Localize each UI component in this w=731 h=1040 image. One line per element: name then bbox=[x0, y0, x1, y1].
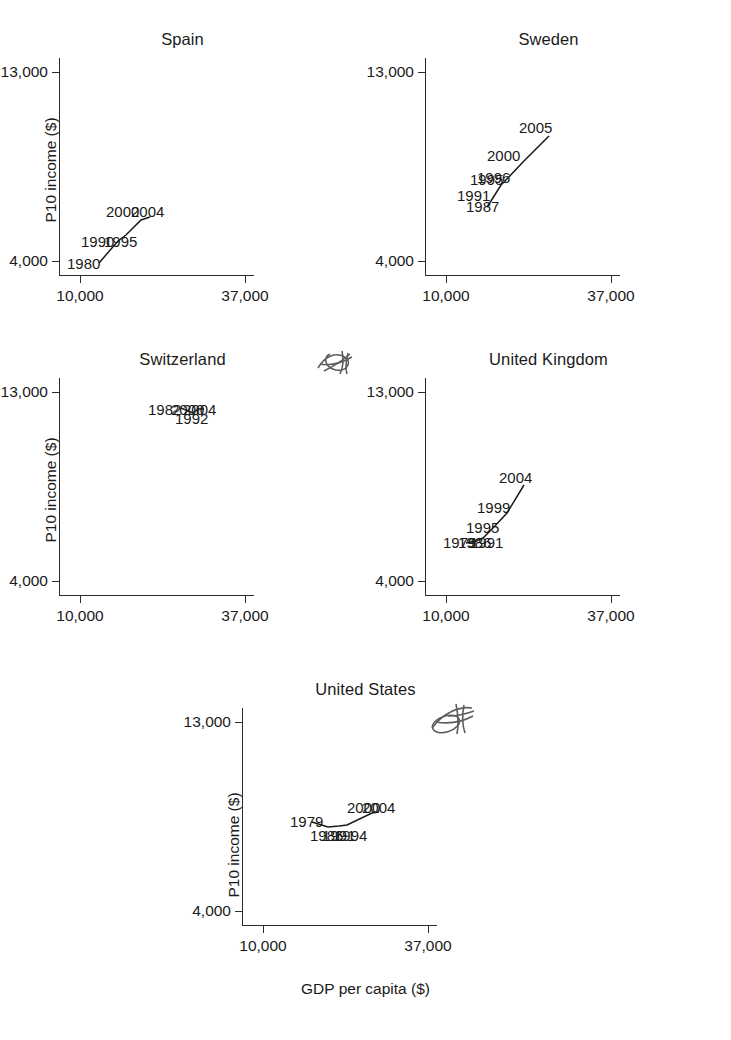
point-label: 1991 bbox=[457, 188, 490, 203]
y-tick-4000 bbox=[418, 261, 425, 262]
point-label: 2005 bbox=[519, 120, 552, 135]
x-tick-label-10000: 10,000 bbox=[56, 607, 103, 625]
panel-united-kingdom: United Kingdom 13,000 4,000 10,000 37,00… bbox=[366, 350, 731, 630]
x-tick-10000 bbox=[80, 596, 81, 603]
point-label: 2004 bbox=[362, 800, 395, 815]
y-tick-4000 bbox=[52, 261, 59, 262]
y-tick-13000 bbox=[235, 722, 242, 723]
y-tick-label-4000: 4,000 bbox=[375, 252, 414, 270]
y-tick-4000 bbox=[418, 581, 425, 582]
x-tick-10000 bbox=[80, 276, 81, 283]
y-tick-label-13000: 13,000 bbox=[1, 383, 48, 401]
y-tick-label-4000: 4,000 bbox=[9, 572, 48, 590]
panel-title-sweden: Sweden bbox=[366, 30, 731, 49]
x-tick-37000 bbox=[428, 926, 429, 933]
point-label: 2004 bbox=[499, 470, 532, 485]
y-tick-13000 bbox=[418, 392, 425, 393]
x-tick-label-10000: 10,000 bbox=[422, 607, 469, 625]
x-tick-label-10000: 10,000 bbox=[422, 287, 469, 305]
panel-title-united-kingdom: United Kingdom bbox=[366, 350, 731, 369]
y-tick-13000 bbox=[52, 72, 59, 73]
point-label: 1994 bbox=[334, 828, 367, 843]
y-tick-label-13000: 13,000 bbox=[184, 713, 231, 731]
series-line-united-kingdom bbox=[425, 378, 620, 596]
plot-area-united-states: 13,000 4,000 10,000 37,000 1979 1986 199… bbox=[242, 708, 437, 926]
x-tick-label-37000: 37,000 bbox=[587, 607, 634, 625]
panel-united-states: United States P10 income ($) 13,000 4,00… bbox=[183, 680, 548, 1010]
panel-sweden: Sweden 13,000 4,000 10,000 37,000 1987 1… bbox=[366, 30, 731, 310]
x-tick-label-37000: 37,000 bbox=[221, 607, 268, 625]
panel-title-spain: Spain bbox=[0, 30, 365, 49]
x-tick-10000 bbox=[446, 276, 447, 283]
x-tick-37000 bbox=[245, 276, 246, 283]
x-tick-37000 bbox=[611, 276, 612, 283]
y-tick-4000 bbox=[235, 911, 242, 912]
x-tick-label-37000: 37,000 bbox=[221, 287, 268, 305]
point-label: 1999 bbox=[477, 500, 510, 515]
series-line-sweden bbox=[425, 58, 620, 276]
x-tick-label-37000: 37,000 bbox=[404, 937, 451, 955]
cropped-header-text bbox=[0, 0, 731, 3]
panel-switzerland: Switzerland P10 income ($) 13,000 4,000 … bbox=[0, 350, 365, 630]
panel-title-switzerland: Switzerland bbox=[0, 350, 365, 369]
series-line-united-states bbox=[242, 708, 437, 926]
x-tick-10000 bbox=[263, 926, 264, 933]
point-label: 2000 bbox=[487, 148, 520, 163]
plot-area-spain: 13,000 4,000 10,000 37,000 1980 1990 199… bbox=[59, 58, 254, 276]
y-tick-4000 bbox=[52, 581, 59, 582]
plot-area-united-kingdom: 13,000 4,000 10,000 37,000 1979 1986 199… bbox=[425, 378, 620, 596]
panel-title-united-states: United States bbox=[183, 680, 548, 699]
point-label: 1995 bbox=[104, 234, 137, 249]
x-tick-label-37000: 37,000 bbox=[587, 287, 634, 305]
y-axis-title-spain: P10 income ($) bbox=[42, 117, 60, 222]
x-tick-10000 bbox=[446, 596, 447, 603]
x-tick-37000 bbox=[245, 596, 246, 603]
x-tick-label-10000: 10,000 bbox=[239, 937, 286, 955]
y-tick-label-13000: 13,000 bbox=[1, 63, 48, 81]
point-label: 2004 bbox=[131, 204, 164, 219]
x-tick-label-10000: 10,000 bbox=[56, 287, 103, 305]
figure-canvas: Spain P10 income ($) 13,000 4,000 10,000… bbox=[0, 0, 731, 1040]
plot-area-switzerland: 13,000 4,000 10,000 37,000 1982 1992 200… bbox=[59, 378, 254, 596]
y-tick-label-13000: 13,000 bbox=[367, 63, 414, 81]
y-axis-title-united-states: P10 income ($) bbox=[225, 792, 243, 897]
ink-scribble-artifact bbox=[312, 348, 358, 378]
x-tick-37000 bbox=[611, 596, 612, 603]
y-tick-13000 bbox=[52, 392, 59, 393]
plot-area-sweden: 13,000 4,000 10,000 37,000 1987 1991 199… bbox=[425, 58, 620, 276]
panel-spain: Spain P10 income ($) 13,000 4,000 10,000… bbox=[0, 30, 365, 310]
y-tick-label-4000: 4,000 bbox=[375, 572, 414, 590]
y-tick-label-4000: 4,000 bbox=[9, 252, 48, 270]
x-axis-title: GDP per capita ($) bbox=[183, 980, 548, 998]
point-label: 2004 bbox=[183, 402, 216, 417]
point-label: 1991 bbox=[470, 535, 503, 550]
y-tick-13000 bbox=[418, 72, 425, 73]
y-axis-title-switzerland: P10 income ($) bbox=[42, 437, 60, 542]
point-label: 1995 bbox=[466, 520, 499, 535]
point-label: 1980 bbox=[67, 256, 100, 271]
y-tick-label-13000: 13,000 bbox=[367, 383, 414, 401]
point-label: 1996 bbox=[477, 170, 510, 185]
y-tick-label-4000: 4,000 bbox=[192, 902, 231, 920]
